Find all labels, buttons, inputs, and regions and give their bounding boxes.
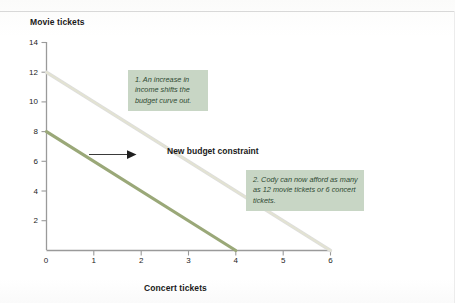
x-tick-label-5: 5 [273,256,293,265]
x-tick-label-6: 6 [321,256,341,265]
y-tick-label-8: 8 [18,127,38,136]
callout-income-shift: 1. An increase in income shifts the budg… [128,70,208,111]
x-tick-label-3: 3 [179,256,199,265]
origin-tick-label-0: 0 [36,256,56,265]
callout-affordability: 2. Cody can now afford as many as 12 mov… [246,170,364,211]
new-budget-constraint-label: New budget constraint [167,146,259,156]
x-axis-ticks [94,251,331,256]
x-tick-label-1: 1 [84,256,104,265]
x-axis-title: Concert tickets [144,283,207,293]
y-tick-label-10: 10 [18,97,38,106]
x-tick-label-4: 4 [226,256,246,265]
y-tick-label-2: 2 [18,216,38,225]
y-tick-label-6: 6 [18,157,38,166]
y-axis-title: Movie tickets [30,17,85,27]
y-tick-label-14: 14 [18,38,38,47]
figure-page: 14 12 10 8 6 4 2 0 1 2 3 4 5 6 Movie tic… [0,0,455,303]
y-tick-label-4: 4 [18,187,38,196]
x-tick-label-2: 2 [131,256,151,265]
y-tick-label-12: 12 [18,68,38,77]
shift-arrow-icon [89,150,137,159]
